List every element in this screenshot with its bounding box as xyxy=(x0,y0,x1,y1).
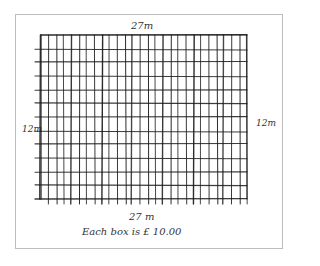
area-grid xyxy=(41,35,247,199)
grid-lines xyxy=(29,35,253,211)
bottom-dimension-label: 27 m xyxy=(129,211,154,222)
right-dimension-label: 12m xyxy=(256,118,276,128)
cost-caption: Each box is £ 10.00 xyxy=(82,226,181,237)
top-dimension-label: 27m xyxy=(131,20,153,31)
